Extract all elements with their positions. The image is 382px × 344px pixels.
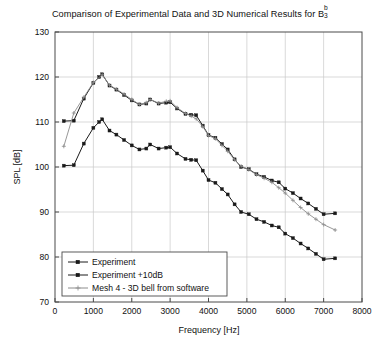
x-tick-label: 3000 — [161, 306, 180, 316]
data-point-marker — [255, 218, 258, 221]
data-point-marker — [115, 133, 118, 136]
data-point-marker — [62, 120, 65, 123]
data-point-marker — [145, 147, 148, 150]
data-point-marker — [207, 179, 210, 182]
data-point-marker — [169, 146, 172, 149]
data-point-marker — [157, 147, 160, 150]
legend-label: Experiment — [92, 257, 136, 267]
x-tick-label: 8000 — [352, 306, 371, 316]
data-point-marker — [92, 126, 95, 129]
data-point-marker — [165, 146, 168, 149]
data-point-marker — [247, 213, 250, 216]
data-point-marker — [149, 143, 152, 146]
y-tick-label: 100 — [35, 162, 50, 172]
data-point-marker — [108, 129, 111, 132]
data-point-marker — [322, 258, 325, 261]
legend-marker — [76, 273, 80, 277]
legend-label: Experiment +10dB — [92, 270, 163, 280]
y-tick-label: 120 — [35, 72, 50, 82]
data-point-marker — [138, 148, 141, 151]
data-point-marker — [62, 164, 65, 167]
figure-container: Comparison of Experimental Data and 3D N… — [0, 0, 382, 344]
data-point-marker — [307, 247, 310, 250]
data-point-marker — [190, 158, 193, 161]
data-point-marker — [184, 157, 187, 160]
data-point-marker — [263, 220, 266, 223]
data-point-marker — [291, 237, 294, 240]
data-series — [62, 118, 336, 261]
data-point-marker — [233, 203, 236, 206]
data-point-marker — [176, 152, 179, 155]
data-point-marker — [195, 114, 198, 117]
data-point-marker — [240, 211, 243, 214]
data-point-marker — [314, 252, 317, 255]
data-point-marker — [307, 202, 310, 205]
data-point-marker — [62, 144, 66, 148]
data-point-marker — [314, 207, 317, 210]
data-point-marker — [214, 181, 217, 184]
data-point-marker — [220, 188, 223, 191]
data-point-marker — [270, 224, 273, 227]
data-point-marker — [291, 192, 294, 195]
y-axis-label: SPL [dB] — [12, 149, 22, 184]
data-series — [62, 73, 336, 216]
data-point-marker — [284, 187, 287, 190]
legend-marker — [76, 260, 80, 264]
data-point-marker — [130, 144, 133, 147]
data-point-marker — [334, 257, 337, 260]
y-tick-label: 80 — [39, 252, 49, 262]
data-point-marker — [322, 213, 325, 216]
data-series — [62, 73, 337, 232]
x-tick-label: 1000 — [84, 306, 103, 316]
legend-label: Mesh 4 - 3D bell from software — [92, 283, 209, 293]
x-tick-label: 2000 — [122, 306, 141, 316]
data-point-marker — [201, 169, 204, 172]
x-tick-label: 6000 — [276, 306, 295, 316]
y-tick-label: 130 — [35, 27, 50, 37]
data-point-marker — [195, 159, 198, 162]
data-point-marker — [101, 118, 104, 121]
data-point-marker — [72, 119, 75, 122]
x-axis-label: Frequency [Hz] — [178, 325, 239, 335]
x-tick-label: 7000 — [314, 306, 333, 316]
x-tick-label: 0 — [53, 306, 58, 316]
data-point-marker — [277, 181, 280, 184]
data-point-marker — [334, 212, 337, 215]
y-tick-label: 90 — [39, 207, 49, 217]
data-point-marker — [226, 193, 229, 196]
plot-area: 7080901001101201300100020003000400050006… — [0, 0, 382, 344]
data-point-marker — [82, 142, 85, 145]
y-tick-label: 110 — [35, 117, 49, 127]
data-point-marker — [284, 232, 287, 235]
series-line — [64, 75, 335, 230]
data-point-marker — [299, 197, 302, 200]
data-point-marker — [299, 242, 302, 245]
x-tick-label: 4000 — [199, 306, 218, 316]
data-point-marker — [72, 164, 75, 167]
data-point-marker — [333, 228, 337, 232]
legend: ExperimentExperiment +10dBMesh 4 - 3D be… — [62, 252, 227, 296]
data-point-marker — [123, 139, 126, 142]
data-point-marker — [277, 226, 280, 229]
data-point-marker — [98, 121, 101, 124]
x-tick-label: 5000 — [237, 306, 256, 316]
y-tick-label: 70 — [39, 297, 49, 307]
